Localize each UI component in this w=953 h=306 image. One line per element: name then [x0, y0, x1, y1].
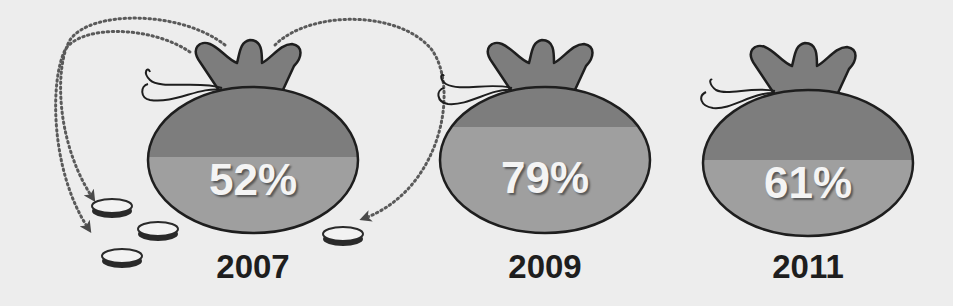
bag-year-2011: 2011: [708, 250, 908, 283]
coin-icon: [323, 227, 363, 246]
money-bag-icon-2009: [432, 40, 662, 247]
coin-icon: [102, 249, 142, 268]
coin-icon: [92, 199, 132, 218]
bag-knot: [196, 40, 301, 92]
bag-percent-2011: 61%: [708, 161, 908, 205]
bag-knot: [751, 43, 856, 95]
bag-year-2007: 2007: [153, 250, 353, 283]
bag-percent-2009: 79%: [445, 156, 645, 200]
bag-knot: [488, 40, 593, 92]
bag-year-2009: 2009: [445, 250, 645, 283]
money-bag-infographic: 52% 79% 61% 2007 2009 2011: [0, 0, 953, 306]
money-bag-icon-2011: [695, 43, 925, 250]
bag-percent-2007: 52%: [153, 158, 353, 202]
money-bag-icon-2007: [140, 40, 370, 247]
coin-icon: [138, 222, 178, 241]
